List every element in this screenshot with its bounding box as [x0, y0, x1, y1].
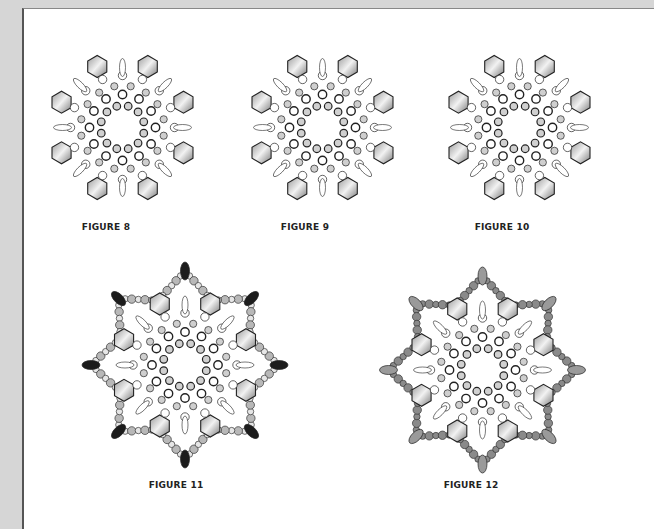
figure-10-diagram — [437, 40, 602, 215]
figure-9-diagram — [240, 40, 405, 215]
figure-12-caption: FIGURE 12 — [411, 480, 531, 490]
figure-8-caption: FIGURE 8 — [46, 222, 166, 232]
figure-8-diagram — [40, 40, 205, 215]
figure-9-caption: FIGURE 9 — [245, 222, 365, 232]
figure-10-caption: FIGURE 10 — [442, 222, 562, 232]
figure-12-diagram — [365, 255, 600, 485]
figure-11-caption: FIGURE 11 — [116, 480, 236, 490]
figure-11-diagram — [70, 250, 300, 480]
